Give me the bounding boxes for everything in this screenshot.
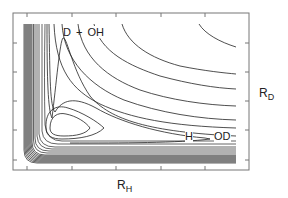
y-axis-label-main: R: [259, 86, 268, 100]
x-axis-label: RH: [117, 180, 132, 195]
y-ticks-right: [245, 43, 249, 160]
label-oh: OH: [88, 26, 105, 38]
x-ticks-top: [27, 13, 205, 17]
x-axis-label-sub: H: [126, 184, 133, 194]
contour-plot: [0, 0, 288, 198]
y-ticks-left: [13, 43, 17, 160]
x-ticks-bottom: [27, 166, 205, 170]
label-d: D: [63, 26, 71, 38]
label-d-oh: D + OH: [63, 27, 104, 38]
label-od: OD: [214, 131, 231, 142]
label-plus: +: [76, 26, 82, 38]
label-h: H: [185, 131, 193, 142]
valley-contours: [47, 24, 236, 143]
y-axis-label-sub: D: [268, 92, 275, 102]
y-axis-label: RD: [259, 88, 274, 103]
x-axis-label-main: R: [117, 178, 126, 192]
